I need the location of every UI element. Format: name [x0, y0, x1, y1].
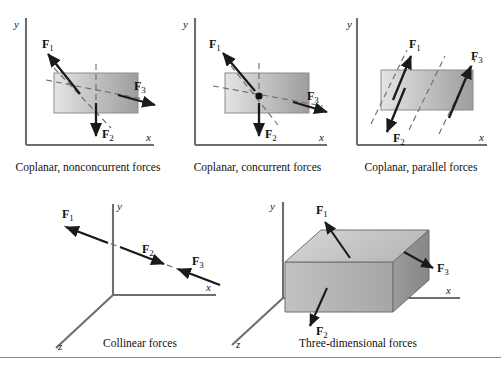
force-label-f1: F1: [42, 37, 54, 53]
y-axis-label: y: [182, 18, 188, 30]
force-label-f2: F2: [142, 242, 154, 258]
y-axis-label: y: [116, 200, 122, 212]
force-arrow-f3: [178, 269, 220, 285]
force-label-f1: F1: [409, 37, 421, 53]
panel-three-dimensional: y x z F1 F2 F3 Three-dimensional forces: [228, 190, 478, 365]
caption-three-dimensional: Three-dimensional forces: [278, 337, 438, 349]
force-label-f1: F1: [209, 37, 221, 53]
force-label-f3: F3: [307, 89, 319, 105]
panel-coplanar-concurrent: y x F1 F2 F3 Coplanar, concurrent forces: [175, 8, 340, 178]
force-label-f3: F3: [134, 79, 146, 95]
force-label-f2: F2: [265, 127, 277, 143]
panel-coplanar-parallel: y x F1 F2 F3 Coplanar, parallel forces: [345, 8, 497, 178]
y-axis-label: y: [13, 18, 19, 30]
panel-coplanar-nonconcurrent: y x F1 F2 F3 Coplanar, nonconcurrent for…: [8, 8, 168, 178]
force-arrow-f1: [66, 227, 108, 243]
force-label-f1: F1: [316, 203, 328, 219]
diagram-coplanar-concurrent: y x F1 F2 F3: [175, 8, 340, 163]
body-rectangle: [225, 73, 309, 113]
force-label-f3: F3: [192, 254, 204, 270]
force-label-f2: F2: [393, 131, 405, 147]
x-axis-label: x: [205, 281, 211, 293]
concurrency-point: [255, 92, 262, 99]
force-label-f3: F3: [471, 49, 483, 65]
diagram-coplanar-nonconcurrent: y x F1 F2 F3: [8, 8, 168, 163]
caption-coplanar-nonconcurrent: Coplanar, nonconcurrent forces: [8, 161, 168, 173]
z-axis-label: z: [57, 340, 63, 352]
caption-collinear: Collinear forces: [75, 337, 205, 349]
bottom-divider-rule: [0, 357, 501, 358]
x-axis-label: x: [318, 131, 324, 143]
caption-coplanar-concurrent: Coplanar, concurrent forces: [175, 161, 340, 173]
diagram-coplanar-parallel: y x F1 F2 F3: [345, 8, 497, 163]
panel-collinear: y x z F1 F2 F3 Collinear forces: [20, 190, 235, 365]
box-front-face: [285, 262, 393, 312]
force-label-f1: F1: [62, 207, 74, 223]
z-axis-label: z: [235, 338, 241, 350]
y-axis-label: y: [346, 18, 352, 30]
force-label-f2: F2: [102, 127, 114, 143]
force-label-f3: F3: [437, 261, 449, 277]
caption-coplanar-parallel: Coplanar, parallel forces: [345, 161, 497, 173]
y-axis-label: y: [269, 200, 275, 212]
x-axis-label: x: [145, 131, 151, 143]
x-axis-label: x: [478, 131, 484, 143]
x-axis-label: x: [445, 284, 451, 296]
